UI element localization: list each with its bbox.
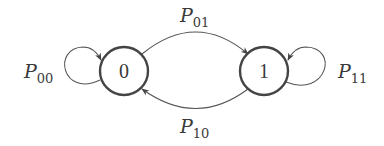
edge-1-self-loop: [286, 47, 325, 85]
state-1-label: 1: [259, 60, 269, 82]
state-0-label: 0: [119, 60, 129, 82]
edge-label-p11: P11: [337, 60, 367, 86]
edge-0-self-loop: [65, 47, 101, 84]
edge-label-p01: P01: [179, 4, 209, 30]
state-1-node: 1: [240, 47, 288, 95]
edge-label-p10: P10: [179, 115, 209, 141]
edge-0-to-1: [142, 32, 248, 54]
markov-diagram: 0 1 P01 P10 P00 P11: [0, 0, 384, 146]
state-0-node: 0: [100, 47, 148, 95]
edge-1-to-0: [142, 89, 248, 109]
edge-label-p00: P00: [23, 60, 53, 86]
